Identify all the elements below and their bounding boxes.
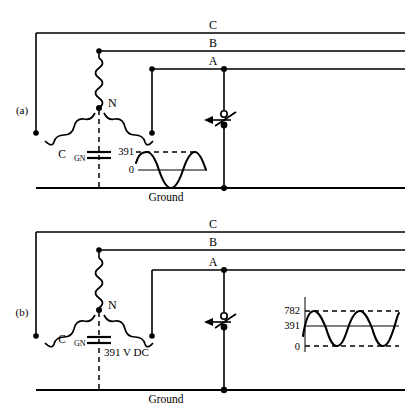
phase-label-a: A: [209, 255, 218, 269]
winding-a-coil: [104, 113, 153, 145]
phase-label-c: C: [209, 18, 217, 32]
waveform-a-tick-upper: 391: [118, 146, 134, 157]
waveform-b-tick-lower: 0: [295, 341, 300, 352]
node-b-bus: [96, 247, 102, 253]
figure-root: C B A N C GN Ground 391 0 (a): [0, 0, 405, 408]
node-a-terminal: [149, 130, 155, 136]
fault-arrow-head-icon: [204, 116, 213, 124]
node-c-terminal: [33, 333, 39, 339]
phase-label-b: B: [209, 235, 217, 249]
neutral-label: N: [108, 298, 117, 312]
phase-label-b: B: [209, 36, 217, 50]
panel-tag-b: (b): [16, 306, 29, 319]
ground-label: Ground: [148, 393, 183, 405]
winding-a-coil: [104, 315, 153, 347]
capacitor-label: C: [58, 148, 66, 160]
neutral-label: N: [108, 96, 117, 110]
phase-label-c: C: [209, 217, 217, 231]
panel-b: C B A N C GN 391 V DC Ground 782 391 0 (…: [0, 204, 405, 408]
waveform-b-sine-curve: [303, 311, 399, 346]
waveform-b-tick-mid: 391: [284, 320, 300, 331]
winding-b-coil: [96, 58, 103, 108]
ground-label: Ground: [148, 191, 183, 203]
node-a-terminal: [149, 333, 155, 339]
waveform-a-tick-lower: 0: [129, 164, 134, 175]
panel-a: C B A N C GN Ground 391 0 (a): [0, 0, 405, 204]
fault-arrow-head-icon: [204, 318, 213, 326]
node-b-bus: [96, 48, 102, 54]
node-a-bus: [149, 66, 155, 72]
winding-c-coil: [45, 113, 95, 145]
phase-label-a: A: [209, 54, 218, 68]
capacitor-subscript: GN: [74, 154, 86, 163]
panel-tag-a: (a): [16, 104, 29, 117]
winding-b-coil: [96, 258, 103, 308]
node-c-terminal: [33, 130, 39, 136]
capacitor-label: C: [58, 333, 66, 345]
capacitor-dc-value: 391 V DC: [104, 346, 149, 358]
waveform-b-tick-upper: 782: [284, 305, 300, 316]
fault-open-circle-icon: [221, 313, 227, 319]
fault-open-circle-icon: [221, 111, 227, 117]
capacitor-subscript: GN: [74, 339, 86, 348]
